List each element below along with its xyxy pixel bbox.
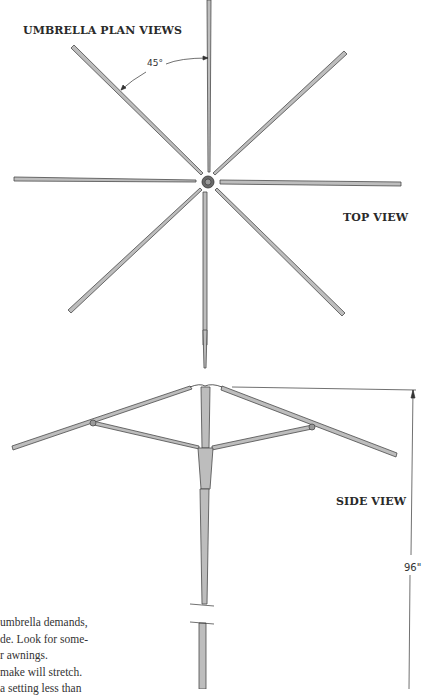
pole-upper bbox=[201, 387, 210, 448]
body-line: r awnings. bbox=[0, 647, 88, 664]
height-dimension-label: 96" bbox=[404, 561, 421, 574]
rib-east bbox=[220, 180, 401, 186]
rib-southeast bbox=[215, 188, 345, 316]
rib-northeast bbox=[213, 51, 347, 175]
pole-stub bbox=[203, 330, 207, 368]
rib-south bbox=[203, 192, 207, 345]
rib-southwest bbox=[68, 188, 202, 313]
rib-right bbox=[221, 386, 397, 457]
side-view-label: SIDE VIEW bbox=[336, 495, 406, 508]
top-view-label: TOP VIEW bbox=[343, 211, 408, 224]
body-line: de. Look for some- bbox=[0, 631, 88, 648]
stretcher-left bbox=[93, 421, 199, 449]
body-text: umbrella demands, de. Look for some- r a… bbox=[0, 614, 88, 697]
height-dimension-line bbox=[232, 387, 416, 689]
top-view bbox=[14, 0, 401, 345]
pole-middle bbox=[200, 489, 209, 604]
angle-arc bbox=[121, 56, 208, 90]
figure-title: UMBRELLA PLAN VIEWS bbox=[23, 24, 182, 37]
stretcher-right bbox=[212, 425, 312, 450]
angle-annotation: 45° bbox=[147, 58, 163, 68]
body-line: make will stretch. bbox=[0, 664, 88, 681]
rib-northwest bbox=[71, 45, 203, 175]
break-lines bbox=[190, 604, 214, 624]
pole-lower bbox=[199, 623, 206, 689]
rib-north bbox=[207, 0, 211, 172]
rib-west bbox=[14, 177, 196, 182]
body-line: a setting less than bbox=[0, 680, 88, 697]
center-hub bbox=[202, 176, 214, 188]
body-line: umbrella demands, bbox=[0, 614, 88, 631]
runner bbox=[198, 448, 213, 489]
